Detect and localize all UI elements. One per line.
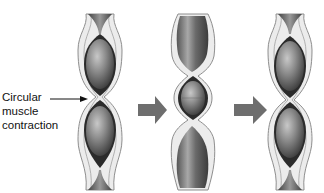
pointer-arrowhead-icon bbox=[80, 96, 88, 102]
food-bolus bbox=[86, 39, 114, 89]
arrow-right-icon bbox=[138, 96, 167, 124]
arrow-right-icon bbox=[234, 96, 267, 124]
label-line-2: muscle bbox=[2, 104, 58, 118]
food-bolus bbox=[276, 108, 304, 158]
tube-stage-2 bbox=[171, 14, 215, 190]
label-line-1: Circular bbox=[2, 90, 58, 104]
circular-muscle-contraction-label: Circular muscle contraction bbox=[2, 90, 58, 132]
peristalsis-diagram: Circular muscle contraction bbox=[0, 0, 324, 193]
label-line-3: contraction bbox=[2, 118, 58, 132]
tube-stage-1 bbox=[78, 14, 122, 190]
food-bolus bbox=[276, 41, 304, 91]
tube-stage-3 bbox=[268, 14, 312, 190]
food-bolus bbox=[86, 106, 114, 156]
